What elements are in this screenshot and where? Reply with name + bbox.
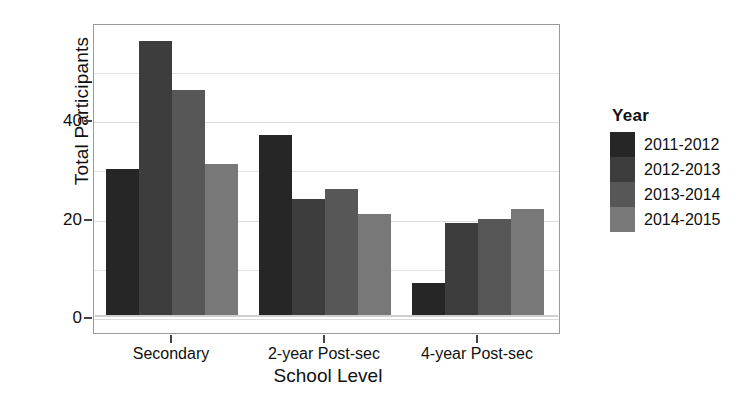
bar-group-2 (259, 23, 391, 317)
legend-swatch-icon (610, 157, 635, 182)
bar[interactable] (139, 23, 172, 317)
legend-item-label: 2011-2012 (644, 136, 719, 154)
legend-items: 2011-20122012-20132013-20142014-2015 (610, 132, 740, 232)
bar-rect (139, 41, 172, 317)
y-axis-tick-label: 20 (20, 210, 82, 230)
bar[interactable] (259, 23, 292, 317)
y-axis-tick-label: 40 (20, 111, 82, 131)
bar-rect (172, 90, 205, 317)
zero-baseline (95, 315, 558, 317)
legend-swatch-icon (610, 207, 635, 232)
bar[interactable] (478, 23, 511, 317)
x-axis-tick-label: 4-year Post-sec (367, 345, 587, 363)
bar-rect (358, 214, 391, 317)
bar[interactable] (205, 23, 238, 317)
chart-figure: Total Participants 40200 Secondary2-year… (0, 0, 742, 402)
bar-series-container (94, 25, 559, 333)
legend-item-4[interactable]: 2014-2015 (610, 207, 740, 232)
y-axis-tick-mark (84, 120, 92, 122)
bar-rect (205, 164, 238, 317)
bar-rect (478, 219, 511, 318)
bar[interactable] (292, 23, 325, 317)
x-axis-title: School Level (0, 365, 656, 387)
x-axis-tick-mark (476, 335, 478, 343)
bar-rect (511, 209, 544, 317)
legend-item-3[interactable]: 2013-2014 (610, 182, 740, 207)
bar[interactable] (511, 23, 544, 317)
bar-rect (445, 223, 478, 317)
legend-title: Year (612, 106, 740, 126)
bar-group-1 (106, 23, 238, 317)
y-axis-tick-label: 0 (20, 308, 82, 328)
plot-panel (93, 24, 560, 334)
legend-item-label: 2013-2014 (644, 186, 721, 204)
bar-rect (412, 283, 445, 317)
bar-rect (259, 135, 292, 317)
bar[interactable] (106, 23, 139, 317)
x-axis-tick-mark (323, 335, 325, 343)
bar[interactable] (172, 23, 205, 317)
bar[interactable] (445, 23, 478, 317)
x-axis-tick-mark (170, 335, 172, 343)
legend-item-label: 2014-2015 (644, 211, 721, 229)
legend-swatch-icon (610, 132, 635, 157)
legend-item-2[interactable]: 2012-2013 (610, 157, 740, 182)
bar-rect (292, 199, 325, 317)
legend-item-1[interactable]: 2011-2012 (610, 132, 740, 157)
bar-group-3 (412, 23, 544, 317)
legend-item-label: 2012-2013 (644, 161, 721, 179)
bar-rect (325, 189, 358, 317)
y-axis-tick-mark (84, 219, 92, 221)
bar[interactable] (358, 23, 391, 317)
bar[interactable] (412, 23, 445, 317)
y-axis: Total Participants (18, 0, 90, 402)
bar[interactable] (325, 23, 358, 317)
legend-swatch-icon (610, 182, 635, 207)
bar-rect (106, 169, 139, 317)
legend: Year 2011-20122012-20132013-20142014-201… (610, 106, 740, 232)
y-axis-tick-mark (84, 317, 92, 319)
